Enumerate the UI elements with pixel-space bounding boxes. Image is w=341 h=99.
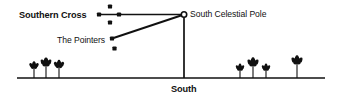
label-south-celestial-pole: South Celestial Pole (190, 10, 266, 19)
label-the-pointers: The Pointers (57, 36, 105, 45)
tree-tree-right-1 (236, 64, 244, 78)
tree-tree-left-3 (54, 60, 64, 78)
sight-lines-group (17, 15, 325, 79)
star-marker-center-star (117, 12, 121, 16)
tree-tree-left-2 (41, 57, 52, 78)
star-marker-lower-pointer-star (112, 46, 116, 50)
star-marker-left-star (97, 12, 101, 16)
label-southern-cross: Southern Cross (19, 11, 87, 20)
tree-tree-right-2 (247, 57, 258, 78)
label-south-horizon-direction: South (171, 85, 197, 94)
star-marker-top-star (108, 4, 112, 8)
pointers-sightline (112, 15, 184, 39)
tree-tree-right-solo (291, 55, 302, 78)
star-marker-upper-pointer-star (110, 36, 114, 40)
south-celestial-pole-ring-icon (181, 12, 186, 17)
diagram-canvas: Southern Cross South Celestial Pole The … (0, 0, 341, 99)
star-marker-bottom-star (108, 20, 112, 24)
tree-tree-right-3 (262, 64, 270, 78)
south-celestial-pole-marker (181, 12, 186, 17)
tree-silhouettes-group (29, 55, 302, 78)
tree-tree-left-1 (29, 61, 38, 78)
